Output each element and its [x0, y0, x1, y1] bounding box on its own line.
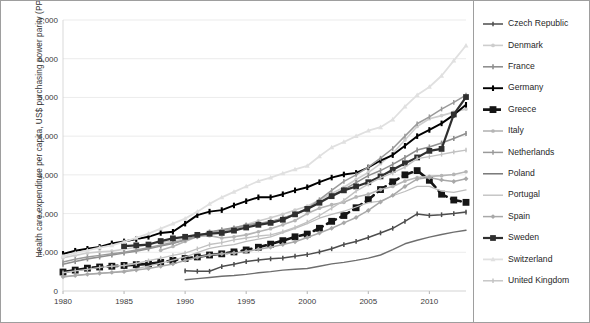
legend-label: France [508, 61, 535, 71]
x-tick-label: 1980 [54, 297, 72, 306]
data-point-marker [293, 208, 297, 212]
legend-item-czech-republic[interactable]: Czech Republic [480, 16, 584, 32]
data-point-marker [207, 231, 213, 237]
data-point-marker [317, 200, 323, 206]
data-point-marker [269, 227, 273, 231]
x-tick-label: 1985 [115, 297, 133, 306]
y-tick-label: 2,000 [38, 210, 59, 219]
legend-item-spain[interactable]: Spain [480, 209, 584, 225]
data-point-marker [293, 219, 297, 223]
data-point-marker [491, 44, 495, 48]
data-point-marker [464, 170, 468, 174]
data-point-marker [403, 179, 407, 183]
data-point-marker [269, 216, 273, 220]
legend-label: Switzerland [508, 254, 553, 264]
legend-item-greece[interactable]: Greece [480, 102, 584, 118]
legend-label: Italy [508, 125, 524, 135]
data-point-marker [133, 242, 139, 248]
data-point-marker [353, 184, 359, 190]
legend-item-sweden[interactable]: Sweden [480, 230, 584, 246]
data-point-marker [171, 245, 175, 249]
data-point-marker [243, 225, 249, 231]
data-point-marker [414, 167, 421, 174]
data-point-marker [281, 223, 285, 227]
data-point-marker [463, 199, 470, 206]
legend-label: Sweden [508, 232, 539, 242]
data-point-marker [219, 230, 225, 236]
data-point-marker [379, 188, 383, 192]
x-tick-label: 2000 [298, 297, 316, 306]
data-point-marker [402, 171, 409, 178]
data-point-marker [159, 249, 163, 253]
data-point-marker [292, 211, 298, 217]
y-tick-label: 3,000 [38, 171, 59, 180]
legend-label: Czech Republic [508, 18, 569, 28]
x-tick-label: 2010 [420, 297, 438, 306]
legend-item-netherlands[interactable]: Netherlands [480, 144, 584, 160]
legend-label: Greece [508, 104, 536, 114]
legend-item-denmark[interactable]: Denmark [480, 37, 584, 53]
data-point-marker [366, 192, 370, 196]
legend-label: Germany [508, 82, 544, 92]
data-point-marker [328, 218, 335, 225]
data-point-marker [194, 232, 200, 238]
legend-item-germany[interactable]: Germany [480, 80, 584, 96]
data-point-marker [121, 243, 127, 249]
data-point-marker [256, 222, 262, 228]
data-point-marker [231, 228, 237, 234]
y-tick-label: 1,000 [38, 248, 59, 257]
data-point-marker [463, 94, 469, 100]
data-point-marker [268, 220, 274, 226]
data-point-marker [426, 148, 432, 154]
data-point-marker [340, 212, 347, 219]
data-point-marker [281, 212, 285, 216]
data-point-marker [450, 197, 457, 204]
data-point-marker [158, 238, 164, 244]
data-point-marker [329, 193, 335, 199]
data-point-marker [341, 187, 347, 193]
legend-item-portugal[interactable]: Portugal [480, 187, 584, 203]
data-point-marker [491, 129, 495, 133]
legend-item-switzerland[interactable]: Switzerland [480, 251, 584, 267]
data-point-marker [257, 230, 261, 234]
legend-label: United Kingdom [508, 275, 569, 285]
y-tick-label: 5,000 [38, 93, 59, 102]
y-tick-label: 7,000 [38, 16, 59, 25]
data-point-marker [318, 206, 322, 210]
x-tick-label: 1990 [176, 297, 194, 306]
legend-label: Netherlands [508, 147, 554, 157]
data-point-marker [304, 206, 310, 212]
legend-label: Poland [508, 168, 535, 178]
data-point-marker [354, 195, 358, 199]
data-point-marker [439, 146, 445, 152]
data-point-marker [490, 235, 496, 241]
x-tick-label: 2005 [359, 297, 377, 306]
legend-label: Denmark [508, 40, 544, 50]
data-point-marker [490, 106, 497, 113]
data-point-marker [403, 138, 407, 142]
legend-item-poland[interactable]: Poland [480, 166, 584, 182]
legend-label: Portugal [508, 189, 540, 199]
y-tick-label: 0 [54, 287, 59, 296]
chart-figure: Health care expenditure per capita, US$ … [0, 0, 590, 323]
x-tick-label: 1995 [237, 297, 255, 306]
data-point-marker [389, 178, 396, 185]
legend-item-france[interactable]: France [480, 59, 584, 75]
data-point-marker [452, 173, 456, 177]
data-point-marker [440, 174, 444, 178]
legend-item-united-kingdom[interactable]: United Kingdom [480, 273, 584, 289]
data-point-marker [220, 236, 224, 240]
data-point-marker [292, 233, 299, 240]
y-tick-label: 6,000 [38, 55, 59, 64]
data-point-marker [280, 217, 286, 223]
legend-item-italy[interactable]: Italy [480, 123, 584, 139]
line-chart-canvas: 01,0002,0003,0004,0005,0006,0007,0001980… [0, 0, 590, 323]
data-point-marker [146, 242, 152, 248]
data-point-marker [391, 185, 395, 189]
data-point-marker [182, 234, 188, 240]
data-point-marker [170, 235, 176, 241]
legend-label: Spain [508, 211, 530, 221]
data-point-marker [464, 107, 468, 111]
data-point-marker [440, 114, 444, 118]
data-point-marker [451, 112, 457, 118]
